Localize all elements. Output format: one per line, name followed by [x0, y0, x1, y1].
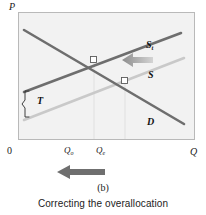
y-axis-label: P — [9, 2, 15, 12]
tick-qo-sub: o — [71, 150, 74, 156]
panel-label: (b) — [0, 182, 206, 195]
marker-intersection-qe — [122, 78, 128, 84]
tax-bracket-label: T — [37, 96, 43, 106]
tick-label-qe: Qe — [96, 146, 105, 155]
tick-qo-base: Q — [64, 145, 71, 155]
supply-demand-plot — [18, 12, 195, 140]
tax-bracket — [22, 91, 29, 117]
curve-label-supply: S — [148, 70, 154, 80]
curve-label-demand: D — [147, 117, 154, 127]
curve-supply-taxed — [24, 33, 181, 92]
curve-label-st-base: S — [146, 39, 152, 50]
marker-intersection-qo — [91, 57, 97, 63]
shift-arrow-below-axis — [55, 163, 111, 181]
figure-caption: (b) Correcting the overallocation — [0, 182, 206, 209]
tick-qe-base: Q — [96, 145, 103, 155]
x-axis-label: Q — [190, 147, 197, 157]
shift-arrow-inside — [122, 53, 153, 67]
curve-label-st-sub: t — [152, 44, 154, 51]
origin-label: 0 — [7, 146, 12, 156]
curve-label-supply-taxed: St — [146, 40, 153, 50]
figure-panel-b: P Q 0 Qo Qe St S D T (b) Correcting the … — [0, 0, 206, 215]
tick-label-qo: Qo — [64, 146, 74, 155]
tick-qe-sub: e — [103, 150, 106, 156]
caption-text: Correcting the overallocation — [0, 198, 206, 209]
